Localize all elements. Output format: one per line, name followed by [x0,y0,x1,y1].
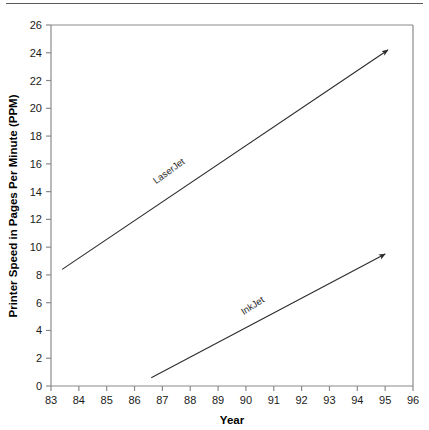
y-tick-label: 6 [36,297,42,309]
y-axis-tick-labels: 02468101214161820222426 [30,19,42,392]
series-inline-labels: LaserJetInkJet [151,155,267,316]
y-tick-label: 2 [36,352,42,364]
y-tick-label: 12 [30,213,42,225]
y-tick-label: 10 [30,241,42,253]
x-tick-label: 89 [212,394,224,406]
x-tick-label: 94 [351,394,363,406]
chart-figure: 02468101214161820222426 8384858687888990… [0,0,429,430]
x-tick-label: 88 [184,394,196,406]
y-tick-label: 8 [36,269,42,281]
y-tick-label: 18 [30,130,42,142]
x-tick-label: 92 [295,394,307,406]
x-tick-label: 90 [240,394,252,406]
x-tick-label: 96 [407,394,419,406]
data-series-lines [62,50,388,378]
plot-frame [51,25,413,386]
y-axis-ticks [46,25,51,386]
x-axis-title: Year [220,414,245,426]
y-tick-label: 22 [30,75,42,87]
printer-speed-line-chart: 02468101214161820222426 8384858687888990… [0,0,429,430]
x-tick-label: 91 [268,394,280,406]
x-tick-label: 83 [45,394,57,406]
series-label-laserjet: LaserJet [151,155,187,186]
x-tick-label: 86 [128,394,140,406]
y-tick-label: 20 [30,102,42,114]
header-divider-rule [6,3,423,4]
x-axis-tick-labels: 8384858687888990919293949596 [45,394,419,406]
y-tick-label: 4 [36,324,42,336]
x-tick-label: 93 [323,394,335,406]
y-axis-title: Printer Speed in Pages Per Minute (PPM) [7,94,19,317]
y-tick-label: 24 [30,47,42,59]
x-tick-label: 84 [73,394,85,406]
x-tick-label: 85 [101,394,113,406]
x-tick-label: 87 [156,394,168,406]
y-tick-label: 14 [30,186,42,198]
y-tick-label: 26 [30,19,42,31]
y-tick-label: 16 [30,158,42,170]
series-label-inkjet: InkJet [239,294,267,317]
series-line-laserjet [62,50,388,269]
y-tick-label: 0 [36,380,42,392]
x-tick-label: 95 [379,394,391,406]
x-axis-ticks [51,386,413,391]
series-line-inkjet [151,254,385,378]
